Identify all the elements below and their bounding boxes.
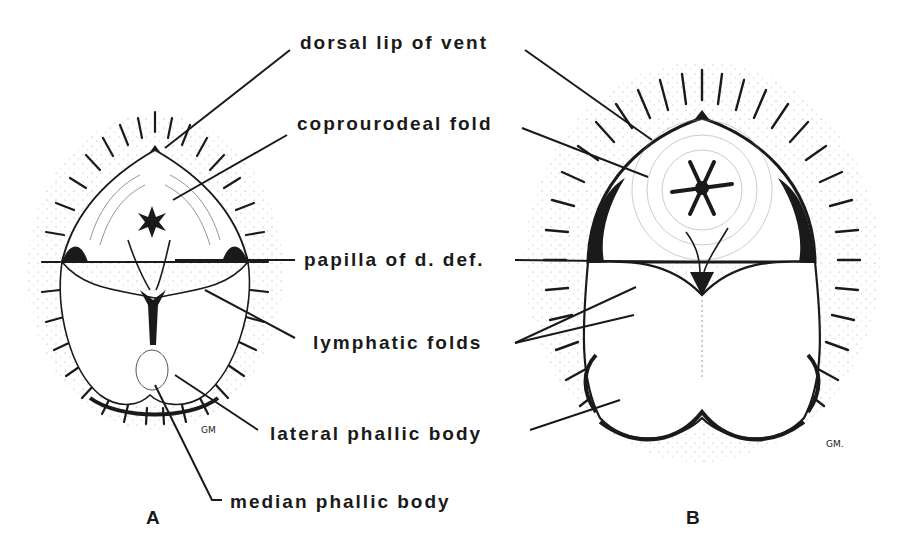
- illustration-canvas: [0, 0, 902, 547]
- artist-signature-b: GM.: [826, 440, 844, 449]
- label-median-phallic-body: median phallic body: [230, 492, 451, 511]
- label-papilla-of-d-def: papilla of d. def.: [304, 250, 485, 269]
- panel-b-drawing: [524, 62, 880, 462]
- panel-letter-b: B: [686, 508, 700, 527]
- anatomical-figure: dorsal lip of vent coprourodeal fold pap…: [0, 0, 902, 547]
- label-lymphatic-folds: lymphatic folds: [313, 333, 482, 352]
- label-coprourodeal-fold: coprourodeal fold: [297, 114, 493, 133]
- label-dorsal-lip-of-vent: dorsal lip of vent: [300, 33, 488, 52]
- panel-letter-a: A: [146, 508, 160, 527]
- label-lateral-phallic-body: lateral phallic body: [270, 424, 482, 443]
- artist-signature-a: GM: [201, 426, 216, 435]
